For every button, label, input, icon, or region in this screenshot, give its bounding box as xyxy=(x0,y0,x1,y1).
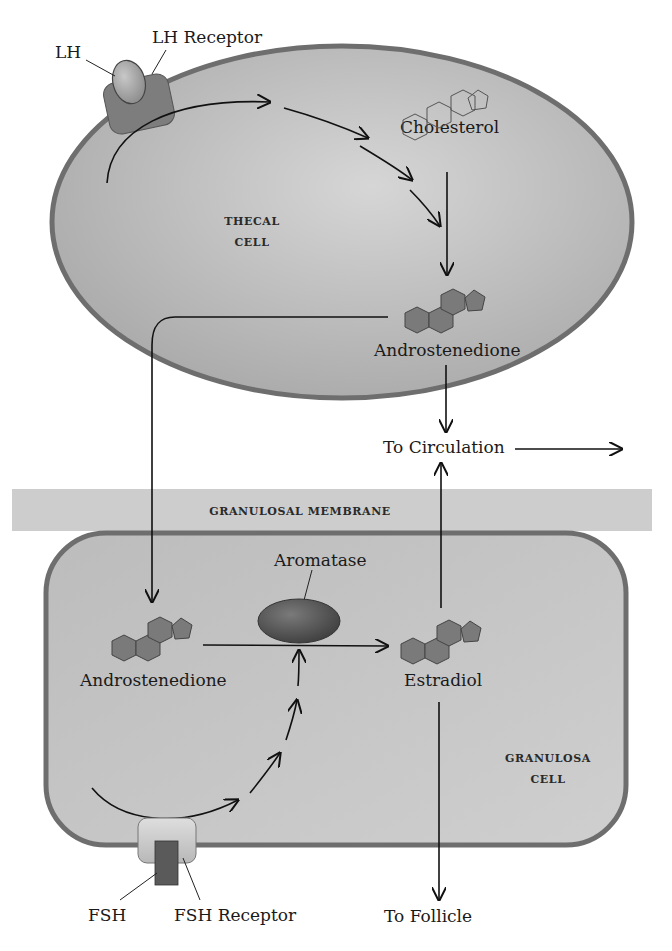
aromatase-label: Aromatase xyxy=(273,550,367,570)
fsh-leader xyxy=(120,873,157,900)
estradiol-label: Estradiol xyxy=(404,670,482,690)
fsh-hormone xyxy=(155,841,178,885)
steroidogenesis-diagram: GRANULOSAL MEMBRANE LH LH Receptor Chole… xyxy=(0,0,672,951)
fsh-receptor-leader xyxy=(183,858,200,900)
granulosa-cell-label-line1: GRANULOSA xyxy=(505,752,591,765)
lh-receptor-leader xyxy=(152,50,166,74)
fsh-receptor-label: FSH Receptor xyxy=(174,905,297,925)
thecal-cell-label-line2: CELL xyxy=(234,236,269,249)
androstenedione-granulosa-label: Androstenedione xyxy=(79,670,227,690)
lh-label: LH xyxy=(55,42,81,62)
androstenedione-thecal-label: Androstenedione xyxy=(373,340,521,360)
fsh-label: FSH xyxy=(88,905,126,925)
to-circulation-label: To Circulation xyxy=(383,437,505,457)
thecal-cell-label-line1: THECAL xyxy=(224,215,280,228)
cholesterol-label: Cholesterol xyxy=(400,117,499,137)
aromatase-enzyme xyxy=(258,599,340,643)
granulosa-cell-label-line2: CELL xyxy=(530,773,565,786)
to-follicle-label: To Follicle xyxy=(384,906,472,926)
lh-leader xyxy=(86,60,115,76)
aromatization-arrow xyxy=(203,645,388,646)
lh-receptor-label: LH Receptor xyxy=(152,27,263,47)
granulosal-membrane-label: GRANULOSAL MEMBRANE xyxy=(209,505,391,518)
